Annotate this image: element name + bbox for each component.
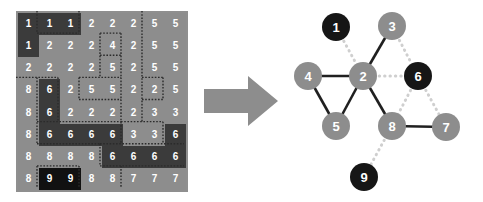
graph-node-9[interactable]: 9 [350, 163, 378, 191]
grid-cell: 8 [18, 146, 39, 168]
grid-cell-label: 2 [131, 85, 137, 95]
grid-cell-label: 5 [110, 85, 116, 95]
grid-cell: 1 [18, 13, 39, 35]
grid-cell: 5 [165, 35, 186, 57]
grid-cell-label: 6 [47, 130, 53, 140]
grid-cell-label: 8 [68, 152, 74, 162]
grid-cell: 8 [60, 146, 81, 168]
grid-cell: 6 [165, 124, 186, 146]
grid-cell-label: 6 [110, 130, 116, 140]
graph-node-label: 8 [388, 119, 395, 134]
grid-cell: 1 [60, 13, 81, 35]
figure-root: 1112225512224255222252558625522586222233… [0, 0, 483, 202]
grid-cell-label: 5 [152, 41, 158, 51]
graph-node-2[interactable]: 2 [349, 62, 377, 90]
grid-cell-label: 9 [68, 174, 74, 184]
graph-node-label: 4 [304, 69, 312, 84]
grid-cell: 8 [18, 79, 39, 101]
grid-cell-label: 8 [26, 152, 32, 162]
grid-cell-label: 3 [152, 108, 158, 118]
grid-cell: 2 [81, 13, 102, 35]
grid-cell: 1 [39, 13, 60, 35]
graph-node-label: 1 [332, 20, 339, 35]
grid-cell-label: 2 [131, 41, 137, 51]
grid-cell-label: 9 [47, 174, 53, 184]
grid-cell: 5 [102, 79, 123, 101]
grid-cell: 3 [144, 102, 165, 124]
grid-cell-label: 6 [47, 85, 53, 95]
grid-cell-label: 8 [26, 130, 32, 140]
grid-cell: 6 [60, 124, 81, 146]
grid-cell: 5 [165, 13, 186, 35]
grid-cell-label: 2 [47, 41, 53, 51]
grid-cell: 5 [102, 57, 123, 79]
grid-cell-label: 8 [26, 108, 32, 118]
grid-cell: 8 [18, 124, 39, 146]
grid-cell: 8 [102, 168, 123, 190]
graph-node-1[interactable]: 1 [322, 13, 350, 41]
grid-cell-label: 2 [131, 63, 137, 73]
grid-cell: 3 [165, 102, 186, 124]
grid-cell: 8 [18, 168, 39, 190]
grid-cell-label: 5 [89, 85, 95, 95]
graph-node-5[interactable]: 5 [322, 112, 350, 140]
grid-cell-label: 8 [26, 174, 32, 184]
graph-node-label: 2 [359, 69, 366, 84]
graph-node-label: 3 [388, 19, 395, 34]
graph-node-3[interactable]: 3 [378, 12, 406, 40]
grid-cell-label: 2 [26, 63, 32, 73]
graph-node-8[interactable]: 8 [378, 112, 406, 140]
transform-arrow [200, 72, 282, 130]
grid-cell: 5 [144, 35, 165, 57]
grid-cell-label: 2 [47, 63, 53, 73]
grid-cell-label: 7 [131, 174, 137, 184]
grid-cell: 9 [39, 168, 60, 190]
grid-cell: 2 [123, 102, 144, 124]
grid-cell-label: 6 [47, 108, 53, 118]
grid-cell-label: 2 [68, 108, 74, 118]
graph-canvas: 134265879 [288, 0, 483, 202]
graph-node-label: 5 [332, 119, 339, 134]
labeled-pixel-grid: 1112225512224255222252558625522586222233… [16, 11, 188, 192]
grid-cell: 6 [81, 124, 102, 146]
grid-cell-label: 6 [173, 130, 179, 140]
grid-cell: 7 [165, 168, 186, 190]
grid-cell-label: 7 [152, 174, 158, 184]
grid-cell-label: 8 [89, 174, 95, 184]
grid-cell: 7 [123, 168, 144, 190]
grid-cell-label: 8 [110, 174, 116, 184]
graph-node-6[interactable]: 6 [404, 62, 432, 90]
grid-cell: 5 [165, 79, 186, 101]
grid-cell: 2 [123, 35, 144, 57]
grid-cell: 4 [102, 35, 123, 57]
grid-cell-label: 5 [173, 85, 179, 95]
grid-cell-label: 2 [68, 85, 74, 95]
region-adjacency-graph: 134265879 [288, 0, 483, 202]
grid-cell-label: 2 [68, 41, 74, 51]
grid-cell: 6 [102, 146, 123, 168]
grid-cell: 5 [144, 13, 165, 35]
grid-cell: 2 [144, 79, 165, 101]
grid-cell: 3 [144, 124, 165, 146]
grid-cell: 2 [39, 57, 60, 79]
grid-cell: 9 [60, 168, 81, 190]
grid-cell: 8 [81, 146, 102, 168]
grid-cell-label: 5 [152, 63, 158, 73]
grid-cell: 2 [123, 13, 144, 35]
grid-cell-label: 8 [47, 152, 53, 162]
grid-cell-label: 4 [110, 41, 116, 51]
graph-node-label: 6 [414, 69, 421, 84]
grid-cell: 8 [39, 146, 60, 168]
grid-cell-label: 6 [110, 152, 116, 162]
grid-cell: 5 [144, 57, 165, 79]
grid-cell: 6 [165, 146, 186, 168]
grid-cell: 2 [123, 79, 144, 101]
grid-cell-label: 6 [173, 152, 179, 162]
grid-cell-label: 2 [89, 108, 95, 118]
graph-node-7[interactable]: 7 [432, 113, 460, 141]
grid-cell: 2 [81, 57, 102, 79]
grid-cell: 2 [102, 102, 123, 124]
grid-cell-label: 2 [152, 85, 158, 95]
graph-node-4[interactable]: 4 [294, 62, 322, 90]
grid-cell-label: 5 [152, 19, 158, 29]
